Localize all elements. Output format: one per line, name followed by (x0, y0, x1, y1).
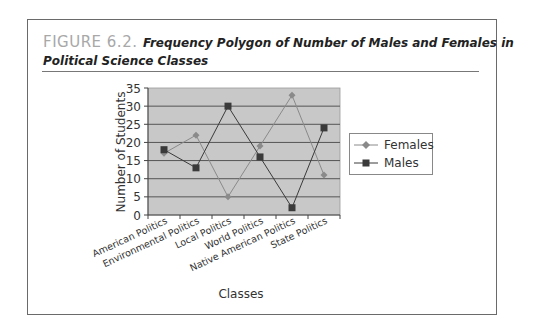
y-tick-label: 35 (126, 82, 141, 96)
y-axis-title: Number of Students (114, 92, 128, 213)
x-axis-title: Classes (218, 287, 263, 301)
y-tick-label: 15 (126, 154, 141, 168)
diamond-marker-icon (354, 140, 378, 150)
legend-item-females: Females (354, 137, 434, 153)
plot-area (148, 88, 340, 215)
data-point (257, 153, 264, 160)
chart-legend: Females Males (349, 133, 433, 175)
square-marker-icon (354, 158, 378, 168)
data-point (161, 146, 168, 153)
data-point (193, 164, 200, 171)
legend-label-males: Males (384, 156, 419, 170)
legend-label-females: Females (384, 138, 434, 152)
frequency-polygon-chart: 05101520253035American PoliticsEnvironme… (0, 0, 535, 332)
y-tick-label: 5 (133, 190, 141, 204)
y-tick-label: 10 (126, 172, 141, 186)
y-tick-label: 25 (126, 118, 141, 132)
data-point (321, 124, 328, 131)
y-tick-label: 30 (126, 100, 141, 114)
y-tick-label: 20 (126, 136, 141, 150)
legend-item-males: Males (354, 155, 419, 171)
data-point (225, 103, 232, 110)
y-tick-label: 0 (133, 209, 141, 223)
data-point (289, 204, 296, 211)
